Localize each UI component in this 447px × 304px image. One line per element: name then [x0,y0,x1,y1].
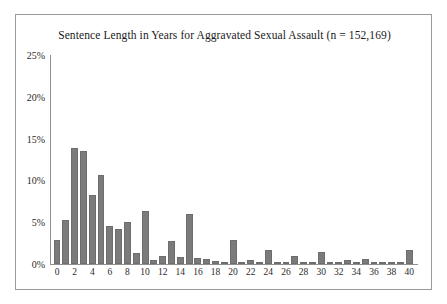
bar [115,229,122,264]
bar [159,256,166,264]
x-tick-label: 4 [90,267,95,277]
bar [327,262,334,264]
bar [362,259,369,264]
bar [265,250,272,264]
x-tick-label: 24 [264,267,274,277]
bar [283,262,290,264]
x-tick-label: 6 [107,267,112,277]
bar [274,262,281,264]
x-tick-label: 2 [72,267,77,277]
x-tick-label: 0 [55,267,60,277]
bar [194,258,201,264]
bar [133,253,140,264]
y-axis-line [50,55,51,265]
x-tick-label: 10 [140,267,150,277]
bar [150,260,157,264]
x-tick-label: 16 [193,267,203,277]
x-tick-label: 32 [334,267,344,277]
bar [186,214,193,264]
bar [379,262,386,264]
bar [256,262,263,265]
bar [168,241,175,264]
x-tick-label: 40 [404,267,414,277]
x-tick-label: 28 [299,267,309,277]
bar [309,262,316,264]
y-tick-label: 10% [27,175,45,186]
bar [344,260,351,264]
x-tick-label: 22 [246,267,256,277]
bar [230,240,237,264]
x-tick-label: 36 [369,267,379,277]
bar [406,250,413,264]
y-tick-label: 15% [27,133,45,144]
bar [106,226,113,264]
bar [62,220,69,264]
x-tick-label: 30 [316,267,326,277]
bar [177,257,184,264]
bar [335,262,342,264]
x-tick-label: 18 [211,267,221,277]
bar [291,256,298,264]
bar [221,262,228,264]
y-tick-label: 0% [32,259,45,270]
bar [54,240,61,264]
bar [98,175,105,264]
bar [89,195,96,264]
bar [238,262,245,264]
y-tick-label: 20% [27,91,45,102]
bar [318,252,325,264]
bar [397,262,404,264]
chart-title: Sentence Length in Years for Aggravated … [16,29,433,41]
y-tick-label: 25% [27,50,45,61]
bar [203,259,210,264]
bar [353,262,360,264]
x-tick-label: 12 [158,267,168,277]
y-tick-label: 5% [32,217,45,228]
x-tick-label: 38 [387,267,397,277]
bar [80,151,87,264]
x-tick-label: 26 [281,267,291,277]
bar [388,262,395,264]
chart-figure: Sentence Length in Years for Aggravated … [15,14,432,290]
bar [300,262,307,264]
bar [124,222,131,264]
bar [71,148,78,264]
x-axis-line [50,264,418,265]
plot-area: 0%5%10%15%20%25% 02468101214161820222426… [50,55,418,265]
x-tick-label: 8 [125,267,130,277]
bar [212,261,219,264]
x-tick-label: 14 [176,267,186,277]
bar [247,260,254,264]
bar [142,211,149,265]
x-tick-label: 34 [352,267,362,277]
x-tick-label: 20 [228,267,238,277]
bar [371,262,378,264]
